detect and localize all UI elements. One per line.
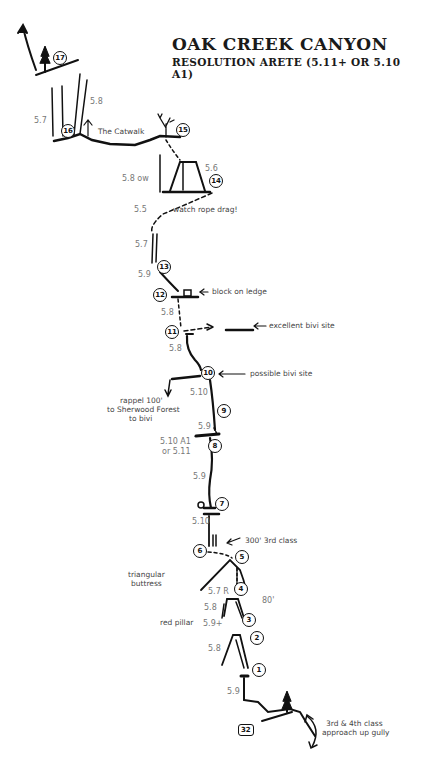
belay-12: 12 — [153, 288, 167, 302]
note-block-on-ledge: block on ledge — [212, 287, 267, 296]
belay-9: 9 — [217, 404, 231, 418]
belay-7: 7 — [215, 497, 229, 511]
grade-label: 5.6 — [205, 164, 218, 173]
belay-16: 16 — [61, 124, 75, 138]
note-approach: approach up gully — [322, 728, 390, 737]
grade-label: 5.9 — [138, 270, 151, 279]
pitch-length-label: 80' — [262, 596, 274, 605]
note-red-pillar: red pillar — [160, 618, 193, 627]
grade-label: 5.7 — [135, 240, 148, 249]
exit-arrow — [23, 27, 36, 70]
belay-5: 5 — [235, 550, 249, 564]
grade-label: 5.9 — [227, 687, 240, 696]
belay-3: 3 — [242, 613, 256, 627]
grade-label: 5.10 — [192, 517, 210, 526]
grade-label: 5.10 A1 — [160, 437, 191, 446]
note-excellent-bivi: excellent bivi site — [269, 321, 335, 330]
note-3rd-class: 300' 3rd class — [245, 536, 297, 545]
belay-13: 13 — [157, 260, 171, 274]
note-possible-bivi: possible bivi site — [250, 369, 312, 378]
grade-label: 5.7 R — [208, 587, 229, 596]
note-rappel: rappel 100' — [120, 396, 163, 405]
bush-icon — [158, 114, 174, 137]
belay-11: 11 — [165, 325, 179, 339]
note-triangular-buttress: triangular — [128, 570, 165, 579]
belay-4: 4 — [234, 582, 248, 596]
grade-label: 5.8 — [208, 644, 221, 653]
grade-label: 5.5 — [134, 205, 147, 214]
grade-label: 5.8 — [161, 308, 174, 317]
grade-label: 5.8 — [169, 344, 182, 353]
note-rope-drag: watch rope drag! — [173, 205, 237, 214]
note-rappel: to bivi — [129, 414, 152, 423]
belay-1: 1 — [252, 663, 266, 677]
grade-label: 5.8 — [204, 603, 217, 612]
grade-label: 5.8 ow — [122, 174, 149, 183]
belay-8: 8 — [208, 439, 222, 453]
tree-icon — [40, 46, 50, 72]
grade-label: 5.8 — [90, 97, 103, 106]
grade-label: 5.10 — [190, 388, 208, 397]
belay-14: 14 — [209, 174, 223, 188]
note-approach: 3rd & 4th class — [326, 719, 383, 728]
start-marker: 32 — [238, 724, 254, 736]
note-triangular-buttress: buttress — [131, 579, 162, 588]
belay-17: 17 — [53, 51, 67, 65]
note-rappel: to Sherwood Forest — [107, 405, 180, 414]
grade-label: 5.9+ — [203, 619, 222, 628]
belay-6: 6 — [193, 544, 207, 558]
belay-15: 15 — [176, 123, 190, 137]
tree-icon-base — [282, 691, 292, 712]
belay-10: 10 — [201, 366, 215, 380]
grade-label: 5.7 — [34, 116, 47, 125]
grade-label: or 5.11 — [162, 447, 191, 456]
grade-label: 5.9 — [193, 472, 206, 481]
grade-label: 5.9 — [198, 422, 211, 431]
note-catwalk: The Catwalk — [98, 127, 144, 136]
belay-2: 2 — [250, 631, 264, 645]
